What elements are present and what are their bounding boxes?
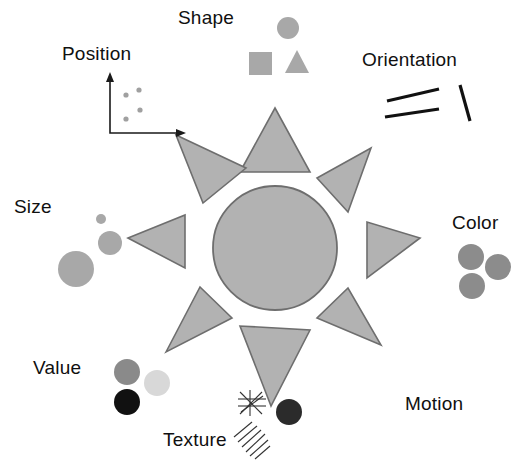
label-orientation: Orientation	[362, 50, 457, 69]
sun-ray-top-right	[317, 148, 371, 212]
visual-variables-diagram: Shape Position Orientation Size Color Va…	[0, 0, 519, 474]
sun-ray-bottom-left	[166, 287, 232, 352]
size-circles-icon	[58, 214, 122, 287]
label-size: Size	[14, 197, 52, 216]
sun-ray-bottom-right	[317, 288, 381, 345]
label-motion: Motion	[405, 394, 463, 413]
value-circles-icon	[114, 359, 170, 415]
shape-swatches-icon	[249, 17, 309, 75]
label-value: Value	[33, 358, 81, 377]
texture-hatch-icon	[234, 390, 270, 459]
sun-core-circle	[213, 186, 337, 310]
sun-ray-right	[367, 222, 420, 278]
position-axes-icon	[106, 72, 186, 137]
label-texture: Texture	[163, 430, 227, 449]
motion-dot-icon	[276, 399, 302, 425]
sun-ray-left	[128, 215, 185, 268]
sun-ray-top-left	[176, 135, 246, 203]
orientation-lines-icon	[385, 85, 470, 121]
label-color: Color	[452, 213, 498, 232]
color-circles-icon	[458, 244, 511, 299]
label-position: Position	[62, 44, 131, 63]
sun-ray-top	[240, 108, 310, 172]
label-shape: Shape	[178, 8, 234, 27]
